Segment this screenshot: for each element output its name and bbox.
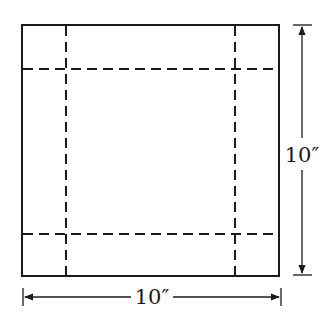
height-label: 10″ bbox=[285, 143, 320, 167]
square-fold-diagram: 10″ 10″ bbox=[0, 0, 336, 318]
width-label: 10″ bbox=[135, 285, 170, 309]
square-outline bbox=[22, 25, 279, 276]
fold-lines bbox=[23, 26, 278, 275]
